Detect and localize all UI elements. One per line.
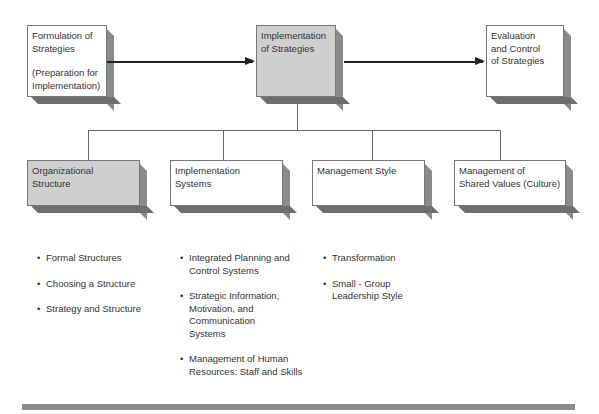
box-title: Management of Shared Values (Culture) [459,165,561,190]
box-shadow-bottom [31,206,154,213]
box-title: Organizational Structure [32,165,135,190]
connector-to-shared-values [500,130,501,160]
arrow-implementation-to-evaluation [344,61,483,63]
management-style-box: Management Style [312,160,425,206]
organizational-structure-box: Organizational Structure [27,160,140,206]
box-shadow-bottom [316,206,439,213]
bullet-item: Transformation [323,252,443,265]
bottom-divider-bar [22,404,575,410]
box-title: Formulation of Strategies [32,30,102,55]
implementation-systems-bullets: Integrated Planning and Control Systems … [180,252,305,391]
connector-vertical-main [297,104,298,131]
box-title: Implementation Systems [175,165,278,190]
management-style-bullets: Transformation Small - Group Leadership … [323,252,443,316]
bullet-item: Small - Group Leadership Style [323,278,443,303]
connector-to-organizational-structure [88,130,89,160]
box-title: Implementation of Strategies [261,30,331,55]
formulation-of-strategies-box: Formulation of Strategies (Preparation f… [27,25,107,97]
box-title: Management Style [317,165,420,178]
box-shadow-bottom [260,97,350,104]
shared-values-box: Management of Shared Values (Culture) [454,160,566,206]
implementation-of-strategies-box: Implementation of Strategies [256,25,336,97]
bullet-item: Management of Human Resources: Staff and… [180,353,305,378]
box-shadow-bottom [490,97,578,104]
arrow-formulation-to-implementation [107,61,253,63]
bullet-item: Formal Structures [37,252,157,265]
connector-to-implementation-systems [223,130,224,160]
box-shadow-bottom [458,206,580,213]
box-subtitle: (Preparation for Implementation) [32,67,102,92]
connector-horizontal [88,130,501,131]
implementation-systems-box: Implementation Systems [170,160,283,206]
bullet-item: Strategic Information, Motivation, and C… [180,290,305,340]
connector-to-management-style [372,130,373,160]
bullet-item: Strategy and Structure [37,303,157,316]
box-title: Evaluation and Control of Strategies [491,30,559,68]
box-shadow-bottom [174,206,297,213]
bullet-item: Integrated Planning and Control Systems [180,252,305,277]
box-shadow-bottom [31,97,121,104]
evaluation-and-control-box: Evaluation and Control of Strategies [486,25,564,97]
bullet-item: Choosing a Structure [37,278,157,291]
organizational-structure-bullets: Formal Structures Choosing a Structure S… [37,252,157,329]
